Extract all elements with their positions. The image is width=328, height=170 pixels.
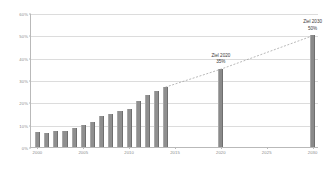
- x-tick-label: 2015: [170, 150, 180, 155]
- bar: [72, 128, 77, 147]
- annotation-value: 35%: [211, 59, 230, 65]
- plot-area: 0%10%20%30%40%50%60% 2000200520102015202…: [30, 14, 318, 148]
- bar: [99, 116, 104, 147]
- y-tick-mark: [29, 81, 31, 82]
- bar: [154, 91, 159, 147]
- annotation-label: Ziel 2020: [211, 53, 230, 58]
- gridline: [31, 14, 318, 15]
- bar: [108, 114, 113, 148]
- x-tick-mark: [175, 147, 176, 149]
- y-tick-label: 10%: [19, 123, 28, 128]
- y-tick-label: 50%: [19, 34, 28, 39]
- bar: [163, 87, 168, 147]
- y-tick-label: 40%: [19, 56, 28, 61]
- y-tick-mark: [29, 58, 31, 59]
- bar: [127, 109, 132, 147]
- bar: [310, 35, 315, 147]
- bar: [81, 125, 86, 147]
- x-tick-label: 2020: [216, 150, 226, 155]
- target-annotation: Ziel 202035%: [211, 53, 230, 65]
- x-tick-label: 2025: [262, 150, 272, 155]
- gridline: [31, 126, 318, 127]
- bar: [117, 111, 122, 147]
- gridline: [31, 36, 318, 37]
- gridline: [31, 81, 318, 82]
- x-tick-label: 2000: [33, 150, 43, 155]
- x-tick-mark: [267, 147, 268, 149]
- y-tick-mark: [29, 125, 31, 126]
- target-annotation: Ziel 203050%: [303, 19, 322, 31]
- chart-container: 0%10%20%30%40%50%60% 2000200520102015202…: [0, 0, 328, 170]
- y-tick-label: 20%: [19, 101, 28, 106]
- bar: [62, 131, 67, 147]
- x-tick-label: 2005: [78, 150, 88, 155]
- y-tick-label: 0%: [22, 146, 28, 151]
- x-tick-mark: [221, 147, 222, 149]
- gridline: [31, 59, 318, 60]
- y-tick-label: 60%: [19, 12, 28, 17]
- bar: [35, 132, 40, 147]
- y-tick-mark: [29, 36, 31, 37]
- x-tick-mark: [83, 147, 84, 149]
- x-tick-mark: [37, 147, 38, 149]
- x-tick-mark: [313, 147, 314, 149]
- gridline: [31, 103, 318, 104]
- bar: [145, 95, 150, 147]
- annotation-value: 50%: [303, 26, 322, 32]
- y-tick-label: 30%: [19, 79, 28, 84]
- y-tick-mark: [29, 148, 31, 149]
- y-tick-mark: [29, 103, 31, 104]
- y-tick-mark: [29, 14, 31, 15]
- bar: [53, 131, 58, 147]
- bar: [44, 133, 49, 147]
- x-tick-mark: [129, 147, 130, 149]
- bar: [218, 69, 223, 147]
- x-tick-label: 2010: [124, 150, 134, 155]
- bar: [90, 122, 95, 147]
- annotation-label: Ziel 2030: [303, 19, 322, 24]
- x-tick-label: 2030: [308, 150, 318, 155]
- bar: [136, 101, 141, 147]
